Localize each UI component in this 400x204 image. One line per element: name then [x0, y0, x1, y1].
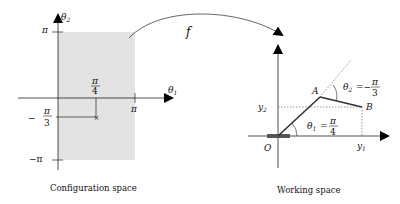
svg-text:θ2: θ2 [343, 82, 352, 93]
svg-text:π: π [91, 76, 99, 86]
origin-label: O [264, 143, 272, 153]
theta1-axis-label: θ1 [168, 85, 177, 96]
svg-text:θ1: θ1 [307, 121, 316, 132]
joint-a-label: A [311, 86, 319, 96]
svg-text:4: 4 [92, 86, 98, 96]
svg-text:3: 3 [372, 88, 378, 98]
svg-text:4: 4 [330, 127, 336, 137]
working-space-caption: Working space [277, 185, 341, 195]
end-b-label: B [365, 102, 373, 112]
mapping-f: f [129, 14, 282, 39]
svg-text:π: π [43, 106, 51, 116]
theta1-arc [292, 123, 297, 136]
theta1-label: θ1 = π 4 [307, 116, 338, 137]
y2-label: y2 [257, 102, 267, 113]
configuration-space-panel: θ1 θ2 π −π π × π 4 − π 3 Configuration s… [18, 12, 177, 193]
svg-text:=−: =− [356, 82, 371, 92]
svg-text:−: − [28, 113, 36, 123]
tick-neg-pi-label: −π [29, 154, 43, 164]
y1-label: y1 [356, 141, 366, 152]
svg-text:π: π [329, 116, 337, 126]
config-point-marker: × [94, 114, 100, 122]
svg-text:π: π [371, 77, 379, 87]
config-region [58, 32, 135, 160]
theta2-arc [333, 85, 337, 101]
tick-pi-top-label: π [41, 25, 49, 35]
working-space-panel: O A B y2 y1 θ1 = π 4 θ2 =− π 3 Working s… [248, 46, 388, 195]
mapping-label: f [185, 25, 193, 39]
link-ab [320, 97, 362, 107]
point-y-label: − π 3 [28, 106, 52, 128]
config-space-caption: Configuration space [50, 183, 137, 193]
svg-text:=: = [320, 121, 328, 131]
theta2-label: θ2 =− π 3 [343, 77, 380, 98]
theta2-axis-label: θ2 [61, 12, 70, 23]
svg-text:3: 3 [44, 118, 50, 128]
tick-pi-right-label: π [130, 104, 138, 114]
diagram-canvas: θ1 θ2 π −π π × π 4 − π 3 Configuration s… [0, 0, 400, 204]
